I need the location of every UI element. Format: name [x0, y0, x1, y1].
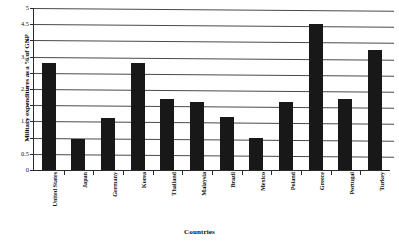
y-axis-tick-label: 1.5	[21, 118, 29, 124]
bar-slot	[34, 8, 64, 170]
bar	[338, 99, 352, 170]
y-axis-tick-label: 2.5	[21, 86, 29, 92]
y-axis-tick-label: 1	[26, 134, 29, 140]
bars-group	[34, 8, 390, 170]
x-axis-category-label: Brazil	[229, 172, 236, 188]
y-axis-tick	[30, 57, 34, 58]
x-axis-title: Countries	[0, 228, 399, 236]
x-axis-category-label: Korea	[140, 172, 147, 188]
y-axis-tick-label: 0.5	[21, 151, 29, 157]
y-axis-tick	[30, 154, 34, 155]
y-axis-tick-label: 3	[26, 70, 29, 76]
bar	[131, 63, 145, 170]
y-axis-tick	[30, 40, 34, 41]
y-axis-tick	[30, 24, 34, 25]
bar-slot	[212, 8, 242, 170]
x-axis-category-label: Turkey	[378, 172, 385, 191]
x-axis-category-label: Portugal	[348, 172, 355, 195]
y-axis-tick	[30, 138, 34, 139]
x-axis-category-label: United States	[51, 172, 58, 207]
y-axis-tick	[30, 73, 34, 74]
y-axis-tick	[30, 8, 34, 9]
y-axis-tick-label: 3.5	[21, 53, 29, 59]
y-axis-tick-label: 0	[26, 167, 29, 173]
y-axis-tick	[30, 89, 34, 90]
bar	[220, 117, 234, 170]
y-axis-tick-label: 2	[26, 102, 29, 108]
bar	[279, 102, 293, 170]
x-axis-category-label: Germany	[111, 172, 118, 197]
y-axis-tick	[30, 170, 34, 171]
y-axis-tick-label: 5	[26, 5, 29, 11]
bar-slot	[153, 8, 183, 170]
y-axis-tick	[30, 121, 34, 122]
x-axis-category-label: Japan	[81, 172, 88, 188]
bar	[368, 50, 382, 170]
bar	[249, 138, 263, 170]
x-axis-category-label: Thailand	[170, 172, 177, 196]
bar-slot	[242, 8, 272, 170]
bar	[160, 99, 174, 170]
bar-slot	[331, 8, 361, 170]
x-axis-category-label: Malaysia	[200, 172, 207, 196]
bar	[309, 24, 323, 170]
y-axis-tick	[30, 105, 34, 106]
x-axis-category-label: Poland	[289, 172, 296, 190]
bar-slot	[301, 8, 331, 170]
bar-slot	[123, 8, 153, 170]
bar	[42, 63, 56, 170]
bar-chart: Military expenditures as a % of GNP 00.5…	[0, 0, 399, 244]
x-axis-category-labels: United StatesJapanGermanyKoreaThailandMa…	[34, 172, 390, 224]
x-axis-category-label: Greece	[318, 172, 325, 190]
bar	[101, 118, 115, 170]
y-axis-tick-label: 4	[26, 37, 29, 43]
bar-slot	[93, 8, 123, 170]
bar	[71, 139, 85, 170]
bar-slot	[64, 8, 94, 170]
bar-slot	[271, 8, 301, 170]
bar-slot	[360, 8, 390, 170]
plot-area: 00.511.522.533.544.55	[33, 8, 390, 171]
y-axis-tick-label: 4.5	[21, 21, 29, 27]
x-axis-category-label: Mexico	[259, 172, 266, 191]
bar	[190, 102, 204, 170]
bar-slot	[182, 8, 212, 170]
